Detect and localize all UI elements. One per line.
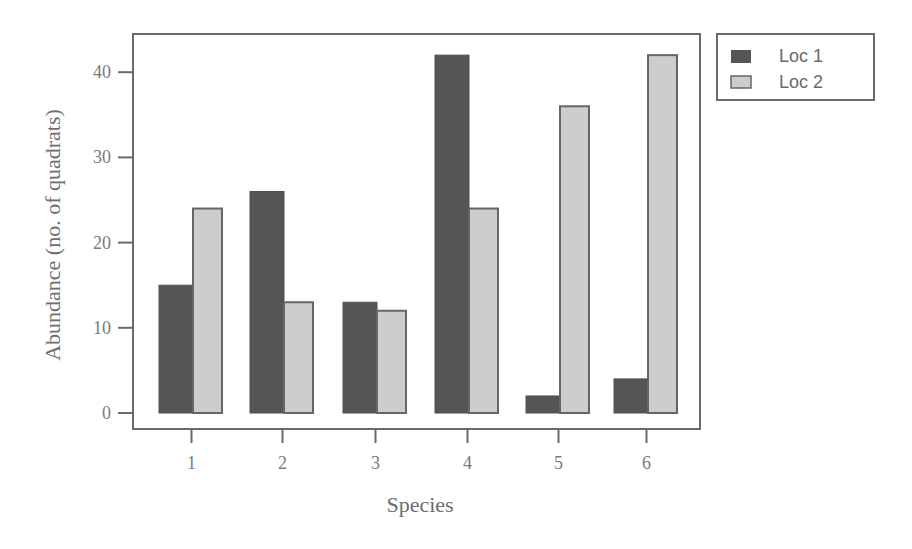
x-tick-label: 2 (278, 453, 287, 473)
y-axis-title: Abundance (no. of quadrats) (40, 109, 65, 361)
y-tick-label: 0 (102, 403, 111, 423)
bar-loc1 (614, 379, 648, 413)
legend-label-loc2: Loc 2 (779, 72, 823, 92)
bar-loc2 (284, 302, 313, 413)
bars (159, 55, 677, 413)
x-axis-title: Species (386, 492, 453, 517)
y-tick-label: 20 (93, 233, 111, 253)
x-tick-label: 6 (642, 453, 651, 473)
bar-loc1 (435, 55, 469, 413)
bar-loc2 (193, 209, 222, 413)
bar-loc1 (343, 302, 377, 413)
legend-label-loc1: Loc 1 (779, 46, 823, 66)
bar-loc2 (377, 311, 406, 413)
legend-swatch-loc1 (731, 50, 751, 63)
y-axis: 010203040 (93, 62, 133, 423)
x-axis: 123456 (187, 429, 651, 473)
bar-loc1 (526, 396, 560, 413)
bar-loc2 (469, 209, 498, 413)
bar-loc1 (159, 285, 193, 413)
y-tick-label: 10 (93, 318, 111, 338)
x-tick-label: 3 (371, 453, 380, 473)
bar-loc1 (250, 191, 284, 413)
legend: Loc 1 Loc 2 (717, 34, 874, 100)
x-tick-label: 4 (463, 453, 472, 473)
y-tick-label: 30 (93, 147, 111, 167)
bar-loc2 (648, 55, 677, 413)
bar-chart: 010203040 123456 Species Abundance (no. … (0, 0, 912, 549)
bar-loc2 (560, 106, 589, 413)
legend-swatch-loc2 (731, 76, 751, 88)
x-tick-label: 1 (187, 453, 196, 473)
y-tick-label: 40 (93, 62, 111, 82)
x-tick-label: 5 (554, 453, 563, 473)
